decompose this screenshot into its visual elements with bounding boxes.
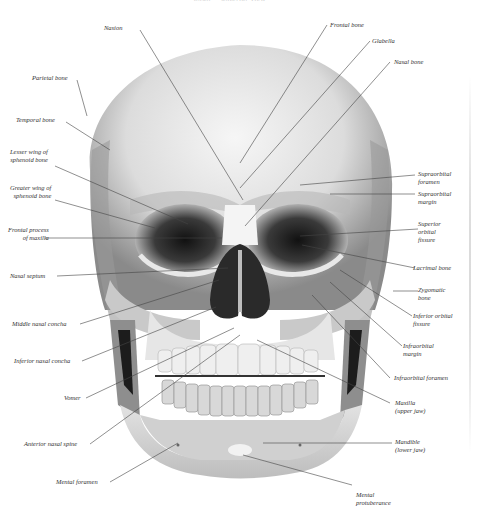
label-temporal-bone: Temporal bone (16, 116, 55, 124)
label-zygomatic-bone: Zygomatic bone (418, 286, 445, 302)
label-vomer: Vomer (64, 394, 81, 402)
label-mandible: Mandible (lower jaw) (395, 438, 425, 454)
label-superior-orbital-fissure: Superior orbital fissure (418, 220, 441, 244)
label-middle-nasal-concha: Middle nasal concha (12, 320, 67, 328)
label-greater-wing-sphenoid: Greater wing of sphenoid bone (10, 184, 51, 200)
label-inferior-nasal-concha: Inferior nasal concha (14, 357, 70, 365)
label-mental-foramen: Mental foramen (56, 478, 98, 486)
label-maxilla: Maxilla (upper jaw) (395, 399, 426, 415)
label-frontal-bone: Frontal bone (330, 21, 364, 29)
label-supraorbital-foramen: Supraorbital foramen (418, 170, 451, 186)
label-anterior-nasal-spine: Anterior nasal spine (24, 440, 77, 448)
label-inferior-orbital-fissure: Inferior orbital fissure (413, 312, 453, 328)
label-parietal-bone: Parietal bone (32, 74, 68, 82)
label-glabella: Glabella (372, 37, 395, 45)
label-lacrimal-bone: Lacrimal bone (413, 264, 451, 272)
label-nasion: Nasion (104, 24, 122, 32)
label-lesser-wing-sphenoid: Lesser wing of sphenoid bone (10, 148, 48, 164)
label-supraorbital-margin: Supraorbital margin (418, 190, 451, 206)
label-mental-protuberance: Mental protuberance (356, 491, 391, 507)
label-nasal-bone: Nasal bone (394, 58, 423, 66)
label-nasal-septum: Nasal septum (10, 272, 45, 280)
label-infraorbital-margin: Infraorbital margin (403, 342, 434, 358)
label-frontal-process-maxilla: Frontal process of maxilla (8, 226, 49, 242)
label-infraorbital-foramen: Infraorbital foramen (394, 374, 448, 382)
